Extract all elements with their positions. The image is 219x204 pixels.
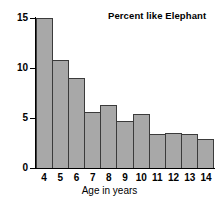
bar (165, 133, 182, 168)
bar-chart: Percent like Elephant 051015 45678910111… (0, 0, 219, 204)
y-axis-tick-label: 0 (22, 163, 28, 173)
x-axis-tick-label: 9 (117, 171, 133, 185)
x-axis-tick-label: 6 (68, 171, 84, 185)
x-axis-tick-label: 5 (52, 171, 68, 185)
bar (68, 78, 85, 168)
x-axis-title: Age in years (0, 185, 219, 197)
bar (36, 18, 53, 168)
x-axis-line (35, 168, 215, 169)
x-axis-tick-label: 4 (36, 171, 52, 185)
y-axis-tick-label: 15 (17, 13, 28, 23)
y-axis-tick-mark (30, 118, 35, 119)
bar (52, 60, 69, 168)
bar (197, 139, 214, 168)
x-axis-tick-label: 8 (101, 171, 117, 185)
bar (133, 114, 150, 168)
y-axis-tick-label: 10 (17, 63, 28, 73)
bar-series (36, 18, 214, 168)
x-axis-tick-label: 13 (182, 171, 198, 185)
bar (181, 134, 198, 168)
bar (116, 121, 133, 168)
x-axis-tick-label: 7 (85, 171, 101, 185)
x-axis-tick-label: 12 (166, 171, 182, 185)
y-axis-tick-mark (30, 18, 35, 19)
y-axis-tick-mark (30, 68, 35, 69)
plot-area (36, 18, 214, 168)
y-axis-tick-mark (30, 168, 35, 169)
bar (100, 105, 117, 168)
x-axis-tick-label: 11 (149, 171, 165, 185)
x-axis-tick-label: 14 (198, 171, 214, 185)
bar (149, 134, 166, 168)
bar (84, 112, 101, 168)
x-axis-tick-label: 10 (133, 171, 149, 185)
x-axis-tick-labels: 4567891011121314 (36, 171, 214, 185)
y-axis-tick-label: 5 (22, 113, 28, 123)
